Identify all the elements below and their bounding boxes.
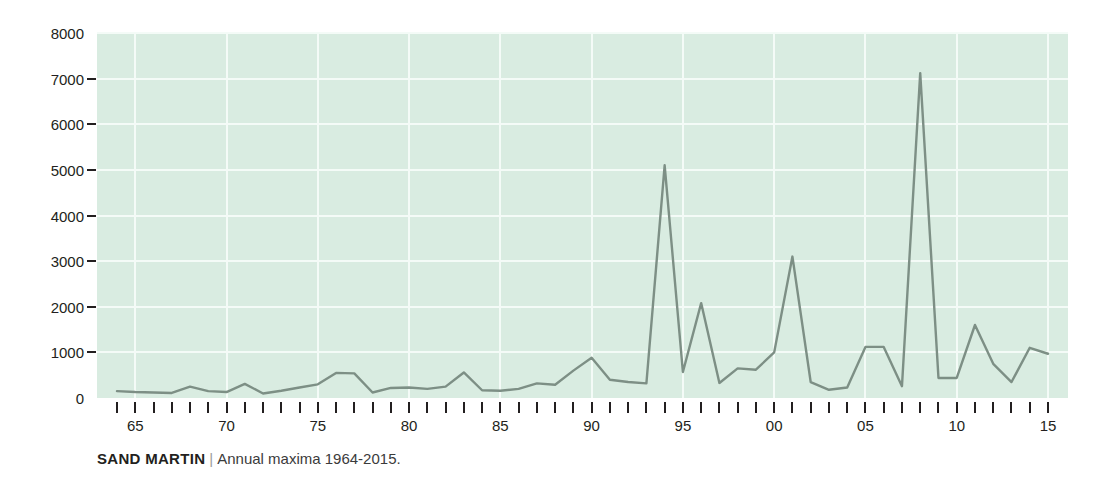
x-tick-mark-1971	[244, 402, 246, 413]
x-tick-mark-1973	[280, 402, 282, 413]
x-tick-mark-2004	[846, 402, 848, 413]
x-tick-mark-2010	[956, 402, 958, 413]
x-tick-mark-1977	[353, 402, 355, 413]
x-tick-mark-2009	[937, 402, 939, 413]
x-tick-label-85: 85	[492, 417, 509, 434]
x-tick-mark-1980	[408, 402, 410, 413]
x-tick-mark-2007	[901, 402, 903, 413]
x-tick-mark-1985	[499, 402, 501, 413]
x-tick-mark-1981	[426, 402, 428, 413]
x-tick-mark-1992	[627, 402, 629, 413]
y-tick-label-4000: 4000	[24, 207, 84, 224]
y-tick-label-2000: 2000	[24, 298, 84, 315]
x-tick-label-65: 65	[127, 417, 144, 434]
x-tick-label-15: 15	[1040, 417, 1057, 434]
x-tick-mark-1986	[518, 402, 520, 413]
y-tick-mark-4000	[87, 215, 96, 217]
x-tick-mark-2014	[1029, 402, 1031, 413]
y-tick-label-1000: 1000	[24, 344, 84, 361]
y-tick-label-6000: 6000	[24, 116, 84, 133]
plot-area	[97, 33, 1068, 398]
x-tick-mark-1994	[664, 402, 666, 413]
y-tick-label-8000: 8000	[24, 25, 84, 42]
x-tick-mark-2008	[919, 402, 921, 413]
x-tick-mark-1988	[554, 402, 556, 413]
x-tick-mark-1999	[755, 402, 757, 413]
chart-caption: SAND MARTIN|Annual maxima 1964-2015.	[97, 450, 401, 467]
data-series-line	[97, 33, 1068, 398]
x-tick-mark-1989	[572, 402, 574, 413]
x-tick-mark-2005	[864, 402, 866, 413]
x-tick-mark-1979	[390, 402, 392, 413]
y-tick-mark-2000	[87, 306, 96, 308]
x-tick-label-10: 10	[948, 417, 965, 434]
x-tick-label-80: 80	[401, 417, 418, 434]
x-tick-mark-2002	[810, 402, 812, 413]
y-tick-mark-1000	[87, 351, 96, 353]
caption-species-name: SAND MARTIN	[97, 450, 205, 467]
y-tick-mark-3000	[87, 260, 96, 262]
x-tick-mark-1972	[262, 402, 264, 413]
x-tick-mark-1975	[317, 402, 319, 413]
y-tick-mark-7000	[87, 78, 96, 80]
x-tick-label-70: 70	[218, 417, 235, 434]
x-tick-mark-1997	[718, 402, 720, 413]
x-tick-mark-2012	[992, 402, 994, 413]
x-tick-mark-1990	[591, 402, 593, 413]
chart-figure: 010002000300040005000600070008000 657075…	[0, 0, 1093, 486]
x-tick-mark-1965	[134, 402, 136, 413]
x-tick-mark-1974	[299, 402, 301, 413]
x-tick-mark-1964	[116, 402, 118, 413]
x-tick-mark-2015	[1047, 402, 1049, 413]
x-tick-mark-2001	[791, 402, 793, 413]
x-tick-label-05: 05	[857, 417, 874, 434]
x-tick-mark-1987	[536, 402, 538, 413]
caption-separator: |	[205, 450, 217, 467]
x-tick-mark-2013	[1010, 402, 1012, 413]
x-tick-label-75: 75	[309, 417, 326, 434]
x-tick-mark-1984	[481, 402, 483, 413]
x-tick-label-00: 00	[766, 417, 783, 434]
y-tick-mark-5000	[87, 169, 96, 171]
caption-description: Annual maxima 1964-2015.	[217, 450, 400, 467]
x-tick-mark-2000	[773, 402, 775, 413]
x-tick-mark-1978	[372, 402, 374, 413]
x-tick-mark-1982	[445, 402, 447, 413]
y-tick-label-5000: 5000	[24, 161, 84, 178]
y-tick-mark-6000	[87, 123, 96, 125]
x-tick-mark-1976	[335, 402, 337, 413]
x-tick-mark-1969	[207, 402, 209, 413]
x-tick-mark-1991	[609, 402, 611, 413]
x-tick-mark-1996	[700, 402, 702, 413]
y-tick-label-3000: 3000	[24, 253, 84, 270]
x-tick-mark-1968	[189, 402, 191, 413]
x-tick-mark-1970	[226, 402, 228, 413]
x-tick-mark-1966	[153, 402, 155, 413]
x-tick-mark-1967	[171, 402, 173, 413]
y-tick-label-0: 0	[24, 390, 84, 407]
x-tick-mark-1983	[463, 402, 465, 413]
x-tick-mark-2003	[828, 402, 830, 413]
x-tick-mark-2011	[974, 402, 976, 413]
x-tick-mark-1998	[737, 402, 739, 413]
x-tick-mark-1993	[645, 402, 647, 413]
y-tick-label-7000: 7000	[24, 70, 84, 87]
x-tick-mark-1995	[682, 402, 684, 413]
x-tick-label-90: 90	[583, 417, 600, 434]
x-tick-label-95: 95	[675, 417, 692, 434]
x-tick-mark-2006	[883, 402, 885, 413]
